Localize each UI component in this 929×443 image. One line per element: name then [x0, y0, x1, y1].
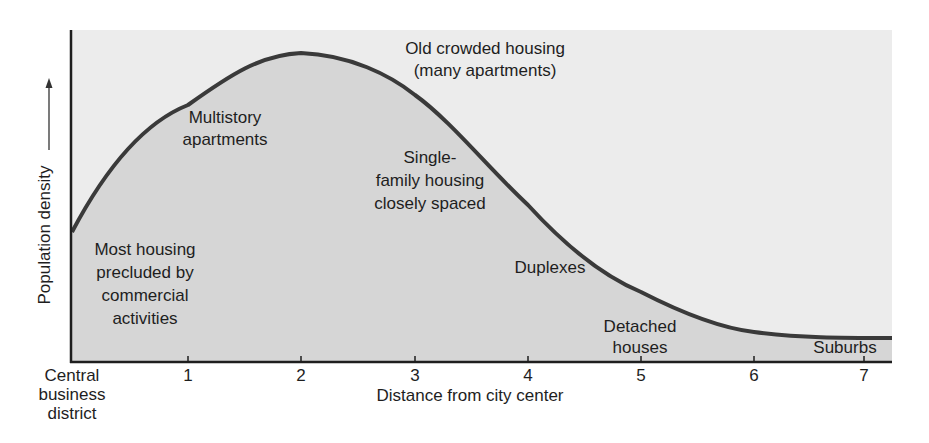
x-tick-7: 7	[849, 366, 879, 385]
x-tick-1: 1	[173, 366, 203, 385]
x-tick-5: 5	[626, 366, 656, 385]
annotation-old-crowded: Old crowded housing (many apartments)	[380, 38, 590, 82]
y-arrow-icon	[46, 78, 53, 150]
x-tick-3: 3	[400, 366, 430, 385]
annotation-detached: Detached houses	[585, 316, 695, 358]
annotation-suburbs: Suburbs	[800, 338, 890, 357]
x-axis-label: Distance from city center	[340, 386, 600, 405]
annotation-single-family: Single- family housing closely spaced	[360, 146, 500, 215]
x-tick-2: 2	[286, 366, 316, 385]
annotation-cbd: Most housing precluded by commercial act…	[70, 238, 220, 330]
x-tick-4: 4	[513, 366, 543, 385]
x-tick-6: 6	[739, 366, 769, 385]
origin-label: Central business district	[22, 366, 122, 423]
y-axis-label: Population density	[35, 166, 55, 305]
annotation-duplexes: Duplexes	[500, 258, 600, 277]
annotation-multistory: Multistory apartments	[160, 107, 290, 151]
